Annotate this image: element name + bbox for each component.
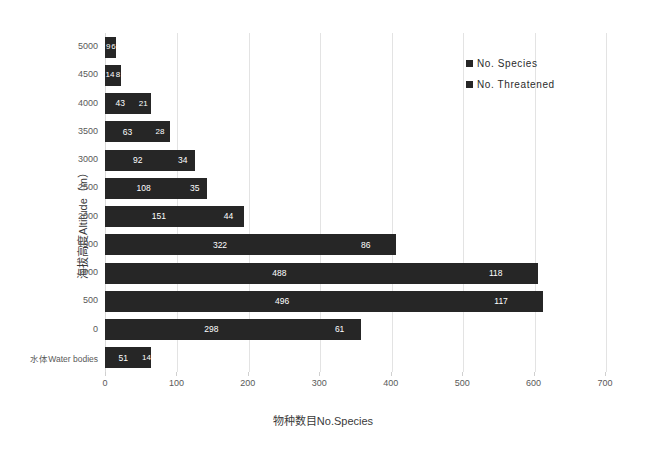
bar-value-label: 322	[213, 241, 227, 250]
stacked-bar[interactable]: 496117	[105, 291, 543, 312]
bar-value-label: 9	[106, 43, 110, 51]
x-axis-tick-mark	[105, 372, 106, 376]
legend-swatch-icon	[466, 60, 473, 67]
x-axis-tick-label: 300	[312, 378, 327, 388]
bar-value-label: 43	[116, 99, 125, 108]
bar-value-label: 21	[139, 100, 148, 108]
y-axis-tick-label: 1000	[0, 267, 98, 277]
bar-value-label: 14	[106, 71, 115, 79]
y-axis-tick-label: 4000	[0, 98, 98, 108]
bar-row: 10835	[105, 178, 605, 199]
x-axis-tick-label: 500	[455, 378, 470, 388]
x-axis-tick-mark	[391, 372, 392, 376]
bar-segment-no-species[interactable]: 43	[105, 93, 136, 114]
x-axis-tick-mark	[248, 372, 249, 376]
y-axis-tick-label: 1500	[0, 239, 98, 249]
bar-segment-no-species[interactable]: 14	[105, 65, 115, 86]
stacked-bar[interactable]: 9234	[105, 150, 195, 171]
chart-legend: No. Species No. Threatened	[466, 58, 555, 100]
stacked-bar[interactable]: 4321	[105, 93, 151, 114]
bar-segment-no-threatened[interactable]: 61	[318, 319, 362, 340]
x-axis-tick-mark	[605, 372, 606, 376]
bar-row: 5114	[105, 347, 605, 368]
bar-segment-no-threatened[interactable]: 117	[459, 291, 543, 312]
bar-segment-no-threatened[interactable]: 8	[115, 65, 121, 86]
gridline	[606, 33, 607, 372]
bar-segment-no-threatened[interactable]: 118	[454, 263, 538, 284]
legend-label-no-threatened: No. Threatened	[477, 79, 555, 90]
x-axis-title: 物种数目No.Species	[0, 412, 646, 428]
bar-value-label: 298	[204, 325, 218, 334]
bar-row: 496117	[105, 291, 605, 312]
bar-value-label: 151	[152, 212, 166, 221]
bar-segment-no-threatened[interactable]: 14	[141, 347, 151, 368]
x-axis-tick-label: 400	[383, 378, 398, 388]
stacked-bar[interactable]: 10835	[105, 178, 207, 199]
x-axis-tick-label: 600	[526, 378, 541, 388]
bar-row: 488118	[105, 263, 605, 284]
bar-row: 9234	[105, 150, 605, 171]
bar-segment-no-species[interactable]: 322	[105, 234, 335, 255]
x-axis-tick-label: 100	[169, 378, 184, 388]
bar-segment-no-threatened[interactable]: 6	[111, 37, 115, 58]
bar-segment-no-threatened[interactable]: 28	[150, 121, 170, 142]
bar-value-label: 118	[489, 269, 503, 278]
y-axis-tick-label: 3500	[0, 126, 98, 136]
bar-value-label: 488	[272, 269, 286, 278]
stacked-bar[interactable]: 96	[105, 37, 116, 58]
x-axis-tick-label: 700	[597, 378, 612, 388]
bar-value-label: 34	[178, 156, 187, 165]
bar-segment-no-species[interactable]: 92	[105, 150, 171, 171]
bar-segment-no-threatened[interactable]: 34	[171, 150, 195, 171]
bar-row: 15144	[105, 206, 605, 227]
bar-segment-no-threatened[interactable]: 35	[182, 178, 207, 199]
y-axis-tick-label: 500	[0, 295, 98, 305]
x-axis-tick-mark	[534, 372, 535, 376]
bar-value-label: 44	[224, 212, 233, 221]
stacked-bar[interactable]: 5114	[105, 347, 151, 368]
stacked-bar[interactable]: 148	[105, 65, 121, 86]
bar-segment-no-species[interactable]: 63	[105, 121, 150, 142]
bar-row: 96	[105, 37, 605, 58]
bar-segment-no-threatened[interactable]: 21	[136, 93, 151, 114]
bar-segment-no-threatened[interactable]: 44	[213, 206, 244, 227]
stacked-bar[interactable]: 29861	[105, 319, 361, 340]
bar-value-label: 35	[190, 184, 199, 193]
y-axis-title: 海拔高度Altitude（m）	[74, 123, 90, 323]
bar-segment-no-species[interactable]: 51	[105, 347, 141, 368]
stacked-bar[interactable]: 32286	[105, 234, 396, 255]
x-axis-tick-mark	[462, 372, 463, 376]
bar-segment-no-species[interactable]: 496	[105, 291, 459, 312]
y-axis-tick-label: 5000	[0, 41, 98, 51]
legend-label-no-species: No. Species	[477, 58, 538, 69]
legend-swatch-icon	[466, 81, 473, 88]
bar-value-label: 6	[111, 43, 115, 51]
bar-value-label: 117	[494, 297, 508, 306]
x-axis-tick-mark	[319, 372, 320, 376]
bar-segment-no-species[interactable]: 108	[105, 178, 182, 199]
stacked-bar[interactable]: 6328	[105, 121, 170, 142]
stacked-bar[interactable]: 488118	[105, 263, 538, 284]
bar-value-label: 14	[142, 354, 151, 362]
x-axis-tick-mark	[176, 372, 177, 376]
y-axis-tick-label: 水体Water bodies	[0, 352, 98, 364]
y-axis-tick-label: 2000	[0, 211, 98, 221]
bar-segment-no-threatened[interactable]: 86	[335, 234, 396, 255]
bar-value-label: 51	[118, 354, 127, 363]
bar-value-label: 8	[116, 71, 120, 79]
bar-segment-no-species[interactable]: 151	[105, 206, 213, 227]
y-axis-tick-label: 2500	[0, 182, 98, 192]
bar-value-label: 63	[123, 128, 132, 137]
bar-row: 32286	[105, 234, 605, 255]
legend-item-no-species: No. Species	[466, 58, 555, 69]
x-axis-tick-label: 0	[102, 378, 107, 388]
y-axis-tick-label: 3000	[0, 154, 98, 164]
bar-segment-no-species[interactable]: 488	[105, 263, 454, 284]
x-axis-tick-label: 200	[240, 378, 255, 388]
bar-value-label: 92	[133, 156, 142, 165]
y-axis-tick-label: 0	[0, 324, 98, 334]
stacked-bar[interactable]: 15144	[105, 206, 244, 227]
y-axis-tick-label: 4500	[0, 69, 98, 79]
chart-canvas: 海拔高度Altitude（m） 500045004000350030002500…	[0, 0, 646, 455]
bar-segment-no-species[interactable]: 298	[105, 319, 318, 340]
